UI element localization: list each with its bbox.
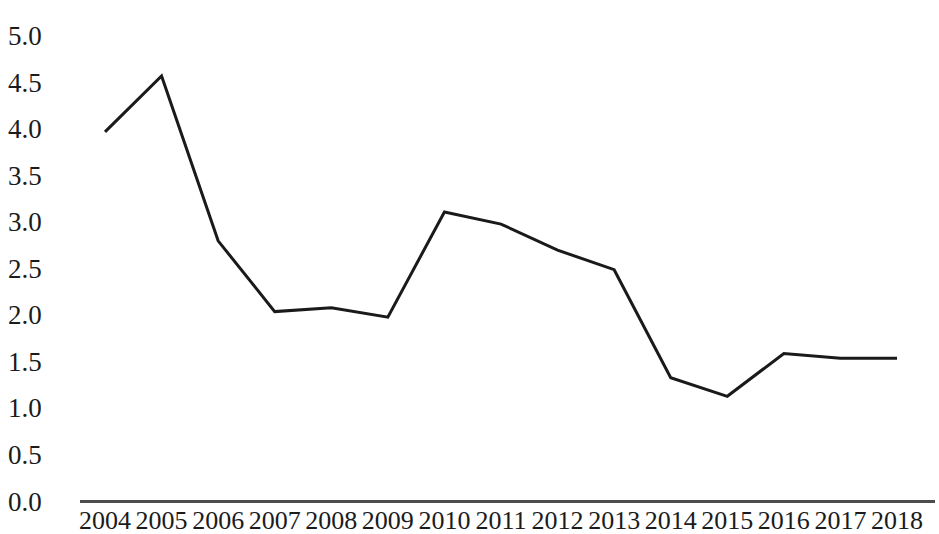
data-series-line (105, 76, 897, 396)
plot-canvas (0, 0, 939, 534)
line-chart: 0.00.51.01.52.02.53.03.54.04.55.0 200420… (0, 0, 939, 534)
chart-page: 0.00.51.01.52.02.53.03.54.04.55.0 200420… (0, 0, 939, 534)
